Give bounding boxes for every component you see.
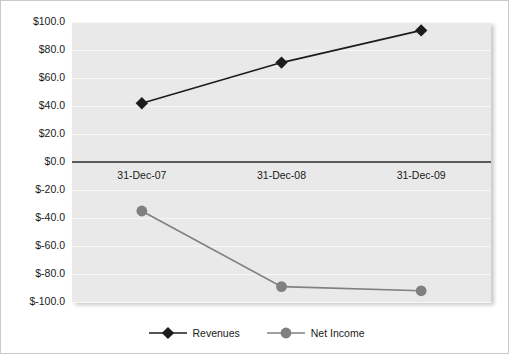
series-layer <box>72 22 491 302</box>
diamond-marker-icon <box>148 326 188 340</box>
circle-marker-icon <box>276 281 287 292</box>
circle-marker-icon <box>136 206 147 217</box>
legend-item-net-income[interactable]: Net Income <box>266 326 365 340</box>
legend-label: Net Income <box>311 327 365 339</box>
diamond-marker-icon <box>415 24 427 36</box>
series-net-income <box>136 206 426 297</box>
y-axis-tick-label: $-20.0 <box>1 183 65 195</box>
y-axis-tick-label: $-60.0 <box>1 239 65 251</box>
y-axis-tick-label: $-100.0 <box>1 295 65 307</box>
gridline <box>72 302 491 303</box>
diamond-marker-icon <box>136 97 148 109</box>
x-axis-tick-label: 31-Dec-08 <box>257 169 306 181</box>
circle-marker-icon <box>416 285 427 296</box>
series-revenues <box>136 24 428 109</box>
circle-marker-icon <box>266 326 306 340</box>
y-axis-tick-label: $-80.0 <box>1 267 65 279</box>
x-axis-tick-label: 31-Dec-07 <box>117 169 166 181</box>
legend-item-revenues[interactable]: Revenues <box>148 326 240 340</box>
chart-legend: RevenuesNet Income <box>1 326 510 340</box>
y-axis-tick-label: $100.0 <box>1 15 65 27</box>
diamond-marker-icon <box>275 56 287 68</box>
y-axis-tick-label: $80.0 <box>1 43 65 55</box>
y-axis-tick-label: $20.0 <box>1 127 65 139</box>
series-line <box>142 211 421 291</box>
y-axis-tick-label: $0.0 <box>1 155 65 167</box>
plot-area <box>72 22 491 302</box>
legend-label: Revenues <box>193 327 240 339</box>
x-axis-tick-label: 31-Dec-09 <box>397 169 446 181</box>
chart-frame: $100.0$80.0$60.0$40.0$20.0$0.0$-20.0$-40… <box>0 0 509 354</box>
y-axis-tick-label: $60.0 <box>1 71 65 83</box>
y-axis-tick-label: $40.0 <box>1 99 65 111</box>
y-axis-tick-label: $-40.0 <box>1 211 65 223</box>
